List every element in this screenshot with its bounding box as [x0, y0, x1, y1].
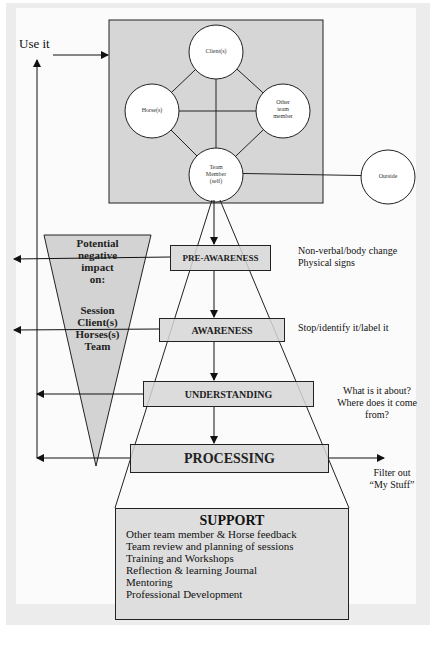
- processing-notes: Filter out “My Stuff”: [362, 467, 422, 491]
- use-it-label: Use it: [19, 36, 50, 52]
- support-title: SUPPORT: [126, 513, 338, 528]
- impact-items: Session Client(s) Horses(s) Team: [60, 304, 135, 352]
- support-item: Mentoring: [126, 576, 348, 588]
- node-horse-label: Horse(s): [127, 107, 177, 114]
- support-item: Team review and planning of sessions: [126, 540, 348, 552]
- stage-processing: PROCESSING: [130, 444, 329, 473]
- impact-heading: Potential negative impact on:: [60, 237, 135, 285]
- support-item: Reflection & learning Journal: [126, 564, 348, 576]
- node-outside-label: Outside: [363, 173, 413, 180]
- node-team-member-label: Team Member (self): [191, 164, 241, 185]
- pre-awareness-notes: Non-verbal/body change Physical signs: [298, 245, 397, 269]
- support-box: SUPPORT Other team member & Horse feedba…: [115, 508, 349, 620]
- stage-awareness: AWARENESS: [159, 318, 285, 342]
- awareness-notes: Stop/identify it/label it: [298, 322, 389, 334]
- stage-pre-awareness: PRE-AWARENESS: [170, 245, 271, 271]
- understanding-notes: What is it about? Where does it come fro…: [332, 385, 422, 421]
- node-other-team-member-label: Other team member: [258, 99, 308, 120]
- node-client-label: Client(s): [191, 48, 241, 55]
- support-item: Other team member & Horse feedback: [126, 528, 348, 540]
- support-item: Professional Development: [126, 588, 348, 600]
- support-item: Training and Workshops: [126, 552, 348, 564]
- stage-understanding: UNDERSTANDING: [143, 381, 314, 407]
